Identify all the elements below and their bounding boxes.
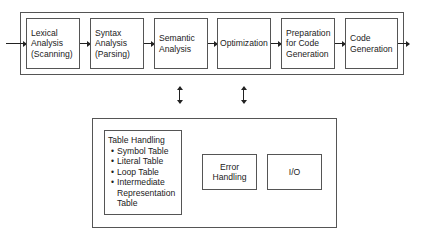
phase-label-line: Preparation [286,28,334,39]
phase-semantic-analysis: Semantic Analysis [154,18,208,69]
flow-arrow [208,43,217,44]
bidirectional-arrow-icon [179,87,180,103]
phase-label-line: Generation [286,49,334,60]
flow-arrow [271,43,281,44]
phase-label-line: (Parsing) [95,49,143,60]
list-item: •Loop Table [111,167,178,178]
list-item-label: Table [111,198,178,209]
phase-lexical-analysis: Lexical Analysis (Scanning) [26,18,80,69]
phase-label-line: Lexical [31,28,79,39]
error-handling-box: Error Handling [202,154,257,190]
box-label-line: Handling [213,172,247,183]
io-box: I/O [267,154,322,190]
phase-label-line: Generation [350,44,397,55]
list-item-label: Literal Table [117,156,163,166]
phase-label-line: Analysis [159,44,207,55]
table-handling-title: Table Handling [108,135,178,146]
phase-syntax-analysis: Syntax Analysis (Parsing) [90,18,144,69]
phase-label-line: Syntax [95,28,143,39]
exit-arrow [398,43,409,44]
phase-label-line: (Scanning) [31,49,79,60]
list-item-label: Intermediate [117,177,165,187]
list-item: •Symbol Table [111,146,178,157]
list-item-label: Symbol Table [117,146,168,156]
list-item: •Literal Table [111,156,178,167]
phase-code-generation: Code Generation [345,18,398,69]
phase-label-line: Semantic [159,33,207,44]
list-item-label: Representation [111,188,178,199]
phase-label-line: Analysis [95,38,143,49]
phase-label-line: Analysis [31,38,79,49]
phase-label-line: Code [350,33,397,44]
phase-label-line: for Code [286,38,334,49]
list-item-label: Loop Table [117,167,159,177]
phase-label-line: Optimization [220,38,270,49]
bidirectional-arrow-icon [243,87,244,103]
list-item: •Intermediate Representation Table [111,177,178,209]
phase-optimization: Optimization [217,18,271,69]
entry-arrow [6,43,26,44]
table-handling-box: Table Handling •Symbol Table •Literal Ta… [104,130,182,215]
phase-preparation-for-code-generation: Preparation for Code Generation [281,18,335,69]
flow-arrow [144,43,154,44]
table-list: •Symbol Table •Literal Table •Loop Table… [108,146,178,209]
box-label-line: I/O [289,167,300,178]
box-label-line: Error [220,162,239,173]
flow-arrow [335,43,345,44]
flow-arrow [80,43,90,44]
